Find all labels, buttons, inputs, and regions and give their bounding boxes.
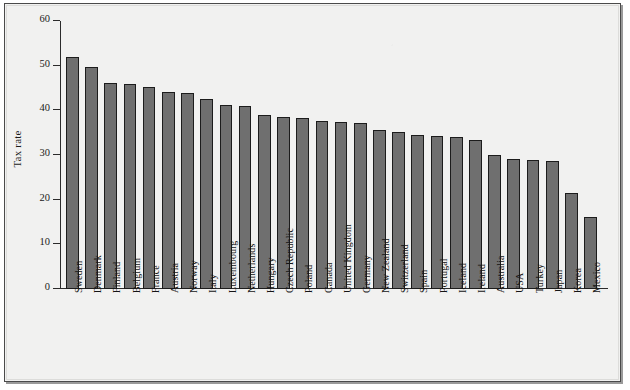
y-axis-tick-label: 60 (26, 13, 50, 24)
y-axis-tick-label: 30 (26, 147, 50, 158)
x-axis-tick-label: Korea (572, 268, 583, 293)
x-axis-tick-label: Canada (323, 262, 334, 293)
x-axis-tick-label: France (150, 265, 161, 293)
bar-chart: Tax rate 0102030405060 SwedenDenmarkFinl… (5, 4, 622, 383)
y-axis-tick-label: 20 (26, 192, 50, 203)
x-axis-tick-label: Finland (111, 262, 122, 293)
bar (162, 92, 175, 289)
x-axis-tick-label: Portugal (438, 258, 449, 293)
y-axis-tick-label: 10 (26, 236, 50, 247)
x-axis-tick-label: New Zealand (380, 238, 391, 293)
x-axis-tick-label: Czech Republic (284, 228, 295, 293)
x-axis-tick-label: Denmark (92, 255, 103, 293)
x-axis-tick-label: Belgium (131, 258, 142, 293)
x-axis-tick-label: Germany (361, 255, 372, 293)
x-axis-tick-label: Japan (553, 270, 564, 293)
x-axis-tick-label: Italy (207, 274, 218, 293)
y-axis-tick-label: 40 (26, 102, 50, 113)
y-axis-tick-label: 50 (26, 58, 50, 69)
figure-frame: Tax rate 0102030405060 SwedenDenmarkFinl… (4, 3, 621, 382)
y-axis-tick: 30 (53, 154, 60, 155)
bar (143, 87, 156, 289)
x-axis-tick-label: United Kingdom (342, 224, 353, 293)
x-axis-tick-label: USA (514, 273, 525, 293)
bar (507, 159, 520, 289)
figure-root: Tax rate 0102030405060 SwedenDenmarkFinl… (0, 0, 630, 390)
y-axis-tick: 60 (53, 20, 60, 21)
y-axis-tick: 20 (53, 199, 60, 200)
y-axis-tick-label: 0 (26, 281, 50, 292)
x-axis-tick-label: Australia (495, 255, 506, 293)
x-axis-tick-label: Luxembourg (227, 241, 238, 293)
x-axis-tick-label: Poland (303, 265, 314, 293)
x-axis-tick-label: Iceland (457, 263, 468, 293)
x-axis-tick-label: Sweden (73, 261, 84, 293)
bar (296, 118, 309, 289)
y-axis-tick: 0 (53, 288, 60, 289)
x-axis-tick-label: Netherlands (246, 244, 257, 293)
x-axis-tick-label: Switzerland (399, 244, 410, 293)
x-axis-tick-label: Norway (188, 260, 199, 293)
plot-area: 0102030405060 SwedenDenmarkFinlandBelgiu… (60, 21, 608, 289)
bar-series: SwedenDenmarkFinlandBelgiumFranceAustria… (60, 21, 608, 289)
y-axis-tick: 40 (53, 109, 60, 110)
bar (104, 83, 117, 289)
x-axis-tick-label: Austria (169, 263, 180, 293)
y-axis-label: Tax rate (11, 104, 23, 194)
bar (411, 135, 424, 289)
x-axis-tick-label: Spain (418, 270, 429, 293)
x-axis-tick-label: Mexico (591, 262, 602, 293)
bar (66, 57, 79, 289)
x-axis-tick-label: Hungary (265, 257, 276, 293)
y-axis-tick: 10 (53, 243, 60, 244)
x-axis-tick-label: Turkey (534, 264, 545, 293)
bar (200, 99, 213, 289)
x-axis-tick-label: Ireland (476, 264, 487, 293)
y-axis-tick: 50 (53, 65, 60, 66)
